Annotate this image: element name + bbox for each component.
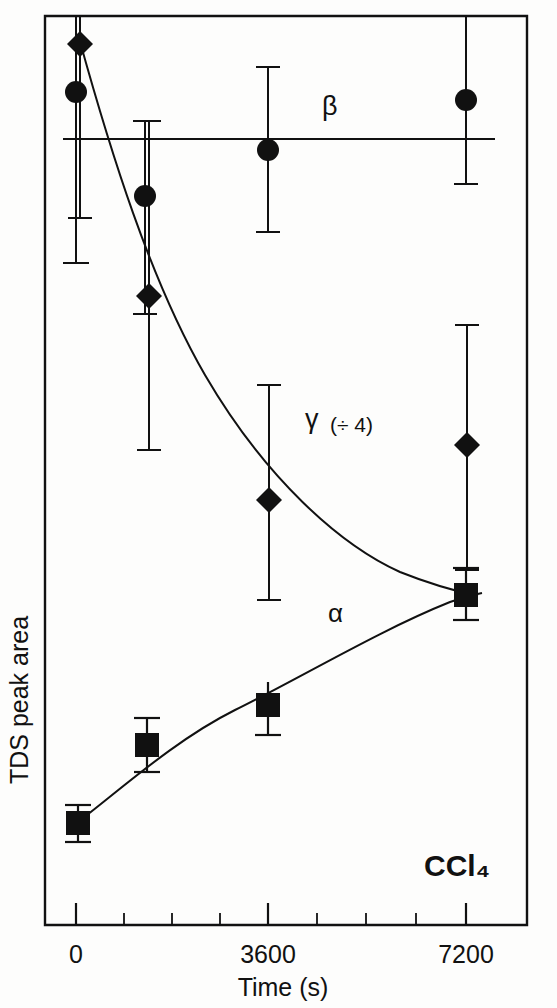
data-point-beta-900	[134, 185, 156, 207]
figure-panel: 0 3600 7200 Time (s) TDS peak area	[0, 0, 557, 1008]
x-axis-label: Time (s)	[238, 973, 329, 1001]
x-tick-label-7200: 7200	[438, 940, 494, 968]
data-point-alpha-0	[66, 811, 90, 835]
series-label-gamma: γ	[305, 404, 319, 434]
data-point-alpha-3600	[256, 693, 280, 717]
series-label-alpha: α	[328, 598, 343, 628]
series-label-gamma-scale: (÷ 4)	[330, 413, 373, 436]
data-point-beta-0	[65, 81, 87, 103]
x-tick-label-0: 0	[69, 940, 83, 968]
data-point-alpha-7200	[454, 583, 478, 607]
series-label-beta: β	[322, 91, 338, 121]
substance-label: CCl₄	[424, 849, 490, 882]
data-point-beta-7200	[455, 89, 477, 111]
x-tick-label-3600: 3600	[240, 940, 296, 968]
y-axis-label: TDS peak area	[5, 616, 33, 784]
chart-svg: 0 3600 7200 Time (s) TDS peak area	[0, 0, 557, 1008]
data-point-beta-3600	[257, 139, 279, 161]
data-point-alpha-900	[135, 733, 159, 757]
